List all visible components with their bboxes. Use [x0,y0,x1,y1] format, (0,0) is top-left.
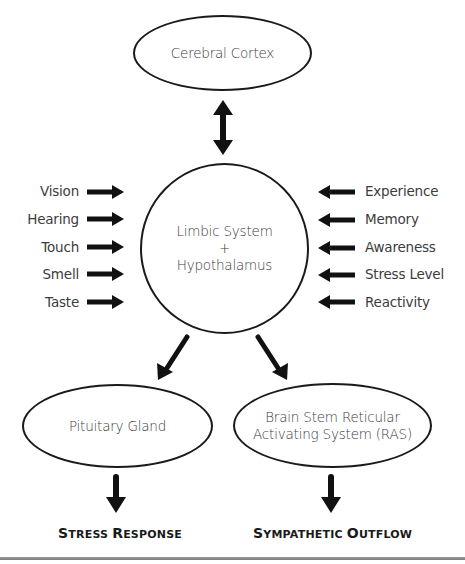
ras-node: Brain Stem Reticular Activating System (… [233,383,432,468]
outcome-letter: R [112,525,123,541]
arrow-down-icon [321,477,341,513]
hypothalamus-line: Hypothalamus [176,257,272,274]
outcome-text: UTFLOW [359,528,412,541]
cerebral-cortex-label: Cerebral Cortex [171,45,274,62]
arrow-right-icon [87,185,124,199]
ras-line-2: Activating System (RAS) [253,426,412,443]
arrow-right-icon [87,212,124,226]
arrow-right-icon [87,240,124,254]
arrow-down-right-icon [258,337,288,380]
outcome-letter: S [253,525,263,541]
arrow-down-icon [106,477,126,513]
arrow-left-icon [318,213,355,227]
limbic-hypothalamus-label: Limbic System + Hypothalamus [176,223,272,274]
outcome-stress-response: STRESS RESPONSE [58,525,182,541]
right-input-arrows [318,185,355,309]
pituitary-gland-label: Pituitary Gland [69,418,166,435]
stress-pathway-diagram: Cerebral Cortex Limbic System + Hypothal… [0,0,465,564]
outcome-text: ESPONSE [123,528,182,541]
input-label-smell: Smell [42,266,79,282]
arrow-right-icon [87,295,124,309]
arrow-down-left-icon [157,337,187,380]
limbic-hypothalamus-node: Limbic System + Hypothalamus [140,163,309,334]
input-label-memory: Memory [365,211,419,227]
ras-label: Brain Stem Reticular Activating System (… [253,409,412,443]
arrow-left-icon [318,268,355,282]
cerebral-cortex-node: Cerebral Cortex [133,15,312,91]
footer-divider [0,557,465,560]
outcome-letter: S [58,525,68,541]
arrow-left-icon [318,295,355,309]
outcome-text: YMPATHETIC [263,528,347,541]
input-label-touch: Touch [41,239,79,255]
arrow-right-icon [87,267,124,281]
arrow-left-icon [318,241,355,255]
pituitary-gland-node: Pituitary Gland [22,384,213,468]
input-label-experience: Experience [365,183,438,199]
input-label-awareness: Awareness [365,239,436,255]
outcome-sympathetic-outflow: SYMPATHETIC OUTFLOW [253,525,412,541]
input-label-hearing: Hearing [27,211,79,227]
outcome-text: TRESS [68,528,112,541]
arrow-left-icon [318,185,355,199]
plus-line: + [176,240,272,257]
input-label-taste: Taste [45,294,79,310]
ras-line-1: Brain Stem Reticular [253,409,412,426]
input-label-vision: Vision [40,183,79,199]
limbic-system-line: Limbic System [176,223,272,240]
left-input-arrows [87,185,124,309]
outcome-letter: O [347,525,359,541]
double-arrow-icon [213,100,233,155]
input-label-reactivity: Reactivity [365,294,430,310]
input-label-stress-level: Stress Level [365,266,444,282]
